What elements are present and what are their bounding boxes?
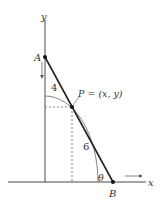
- angle-theta-label: θ: [98, 172, 104, 183]
- point-p-label: P = (x, y): [77, 88, 123, 99]
- segment-ap-length: 4: [51, 82, 57, 93]
- point-a-label: A: [33, 52, 41, 63]
- point-p-dot: [70, 105, 74, 109]
- point-b-dot: [111, 180, 115, 184]
- point-b-label: B: [108, 188, 116, 199]
- y-axis-label: y: [40, 11, 47, 22]
- ladder-segment: [45, 57, 113, 182]
- x-axis-label: x: [148, 177, 154, 188]
- diagram-canvas: y x A B P = (x, y) 4 6 θ: [0, 0, 160, 203]
- point-a-dot: [43, 55, 47, 59]
- segment-pb-length: 6: [83, 141, 89, 152]
- ladder-diagram: y x A B P = (x, y) 4 6 θ: [0, 0, 160, 203]
